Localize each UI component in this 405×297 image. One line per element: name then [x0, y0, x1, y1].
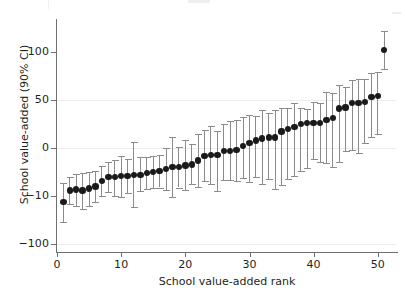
data-point-marker: [67, 187, 73, 193]
error-bar-cap-upper: [131, 142, 138, 143]
data-point-marker: [246, 140, 252, 146]
y-axis-tick: [51, 196, 56, 197]
chart-figure: 100500−10−100 01020304050 School value-a…: [0, 0, 405, 297]
error-bar-cap-lower: [266, 179, 273, 180]
error-bar-cap-upper: [343, 87, 350, 88]
error-bar-whisker: [313, 102, 314, 159]
error-bar-whisker: [294, 103, 295, 176]
x-axis-tick: [314, 252, 315, 257]
error-bar-cap-upper: [73, 174, 80, 175]
data-point-marker: [112, 174, 118, 180]
error-bar-whisker: [345, 87, 346, 151]
y-axis-tick-label: 50: [35, 93, 49, 106]
error-bar-cap-lower: [105, 192, 112, 193]
error-bar-cap-lower: [125, 193, 132, 194]
error-bar-cap-upper: [253, 116, 260, 117]
plot-area: [57, 20, 397, 252]
error-bar-cap-upper: [208, 126, 215, 127]
x-axis-title: School value-added rank: [57, 275, 397, 288]
x-axis-tick: [185, 252, 186, 257]
error-bar-cap-lower: [279, 185, 286, 186]
error-bar-cap-upper: [221, 124, 228, 125]
data-point-marker: [60, 199, 66, 205]
error-bar-cap-lower: [285, 179, 292, 180]
error-bar-cap-upper: [291, 103, 298, 104]
error-bar-whisker: [377, 72, 378, 134]
error-bar-cap-upper: [80, 173, 87, 174]
error-bar-cap-upper: [259, 110, 266, 111]
error-bar-cap-upper: [176, 147, 183, 148]
error-bar-cap-upper: [214, 131, 221, 132]
error-bar-cap-lower: [214, 191, 221, 192]
error-bar-cap-upper: [362, 79, 369, 80]
error-bar-cap-lower: [240, 178, 247, 179]
error-bar-cap-lower: [144, 189, 151, 190]
error-bar-whisker: [332, 93, 333, 167]
error-bar-cap-lower: [189, 184, 196, 185]
error-bar-cap-upper: [60, 183, 67, 184]
error-bar-cap-upper: [304, 109, 311, 110]
error-bar-cap-lower: [150, 188, 157, 189]
y-axis-title: School value-added (90% CI): [18, 25, 31, 225]
error-bar-cap-upper: [375, 72, 382, 73]
error-bar-cap-lower: [368, 137, 375, 138]
error-bar-cap-lower: [311, 159, 318, 160]
error-bar-cap-lower: [362, 143, 369, 144]
error-bar-cap-upper: [125, 159, 132, 160]
error-bar-cap-lower: [259, 184, 266, 185]
x-axis-spine: [56, 252, 398, 253]
data-point-marker: [355, 100, 361, 106]
error-bar-cap-lower: [195, 187, 202, 188]
x-axis-tick: [378, 252, 379, 257]
error-bar-cap-upper: [240, 117, 247, 118]
error-bar-cap-lower: [291, 176, 298, 177]
error-bar-whisker: [364, 79, 365, 144]
data-point-marker: [368, 94, 374, 100]
data-point-marker: [156, 168, 162, 174]
error-bar-cap-lower: [304, 168, 311, 169]
error-bar-cap-upper: [67, 177, 74, 178]
data-point-marker: [208, 152, 214, 158]
data-point-marker: [233, 147, 239, 153]
error-bar-cap-lower: [80, 209, 87, 210]
y-axis-tick: [51, 244, 56, 245]
data-point-marker: [381, 47, 387, 53]
data-point-marker: [278, 128, 284, 134]
error-bar-cap-lower: [298, 171, 305, 172]
data-point-marker: [79, 187, 85, 193]
x-axis-tick-label: 40: [294, 258, 334, 271]
error-bar-cap-lower: [67, 204, 74, 205]
cropped-text-artifact: [392, 12, 401, 14]
error-bar-cap-lower: [118, 197, 125, 198]
data-point-marker: [163, 166, 169, 172]
error-bar-cap-upper: [86, 172, 93, 173]
error-bar-cap-upper: [317, 103, 324, 104]
error-bar-cap-upper: [336, 85, 343, 86]
error-bar-cap-lower: [157, 188, 164, 189]
error-bar-cap-upper: [202, 130, 209, 131]
error-bar-cap-lower: [343, 151, 350, 152]
error-bar-cap-lower: [163, 190, 170, 191]
data-point-marker: [195, 157, 201, 163]
error-bar-cap-upper: [227, 121, 234, 122]
error-bar-cap-upper: [112, 160, 119, 161]
data-point-marker: [137, 172, 143, 178]
error-bar-cap-lower: [92, 202, 99, 203]
error-bar-whisker: [352, 80, 353, 150]
x-axis-tick: [121, 252, 122, 257]
error-bar-cap-upper: [118, 156, 125, 157]
error-bar-cap-upper: [195, 134, 202, 135]
error-bar-whisker: [326, 92, 327, 163]
error-bar-cap-lower: [336, 162, 343, 163]
error-bar-cap-lower: [202, 181, 209, 182]
error-bar-whisker: [262, 110, 263, 183]
error-bar-cap-lower: [234, 181, 241, 182]
error-bar-cap-lower: [73, 206, 80, 207]
data-point-marker: [272, 134, 278, 140]
x-axis-tick-label: 10: [101, 258, 141, 271]
error-bar-cap-lower: [349, 150, 356, 151]
y-axis-tick-label: 0: [42, 141, 49, 154]
data-point-marker: [323, 117, 329, 123]
y-axis-tick: [51, 100, 56, 101]
error-bar-cap-upper: [381, 31, 388, 32]
